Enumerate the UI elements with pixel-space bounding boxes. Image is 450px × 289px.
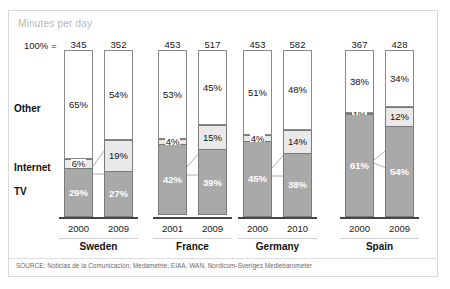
segment-value: 27% (109, 189, 128, 199)
segment-value: 53% (163, 90, 182, 100)
year-label-france-2001: 2001 (158, 223, 187, 234)
segment-internet-sweden-2009: 19% (104, 140, 133, 172)
chart-title: Minutes per day (18, 18, 92, 29)
segment-other-spain-2000: 38% (345, 50, 374, 113)
segment-other-germany-2010: 48% (283, 50, 312, 130)
segment-value: 54% (109, 90, 128, 100)
baseline-germany (238, 217, 317, 219)
year-label-sweden-2000: 2000 (64, 223, 93, 234)
segment-value: 39% (203, 178, 222, 188)
country-divider-france (153, 238, 232, 239)
segment-value: 34% (390, 74, 409, 84)
country-divider-germany (238, 238, 317, 239)
segment-other-sweden-2009: 54% (104, 50, 133, 140)
segment-internet-germany-2000: 4% (243, 135, 272, 142)
segment-value: 45% (203, 83, 222, 93)
segment-value: 61% (350, 161, 369, 171)
segment-value: 65% (69, 100, 88, 110)
segment-value: 14% (288, 137, 307, 147)
baseline-sweden (59, 217, 138, 219)
segment-tv-spain-2009: 54% (385, 127, 414, 217)
segment-internet-sweden-2000: 6% (64, 159, 93, 169)
segment-internet-france-2001: 4% (158, 139, 187, 146)
bar-total-sweden-2000: 345 (64, 39, 93, 50)
row-label-tv: TV (14, 186, 27, 197)
country-divider-sweden (59, 238, 138, 239)
chart-root: Minutes per day 100% = Other Internet TV… (0, 0, 450, 289)
segment-tv-france-2009: 39% (198, 150, 227, 215)
segment-tv-spain-2000: 61% (345, 115, 374, 217)
year-label-spain-2009: 2009 (385, 223, 414, 234)
bar-total-france-2009: 517 (198, 39, 227, 50)
segment-tv-france-2001: 42% (158, 145, 187, 215)
bar-total-germany-2000: 453 (243, 39, 272, 50)
segment-value: 15% (203, 133, 222, 143)
segment-value: 6% (71, 159, 87, 169)
country-divider-spain (340, 238, 419, 239)
segment-tv-germany-2000: 45% (243, 142, 272, 217)
country-label-germany: Germany (238, 241, 317, 252)
country-label-france: France (153, 241, 232, 252)
bar-total-germany-2010: 582 (283, 39, 312, 50)
year-label-germany-2000: 2000 (243, 223, 272, 234)
segment-other-germany-2000: 51% (243, 50, 272, 135)
segment-tv-sweden-2009: 27% (104, 172, 133, 217)
segment-value: 42% (163, 175, 182, 185)
segment-internet-germany-2010: 14% (283, 130, 312, 153)
segment-value: 51% (248, 88, 267, 98)
segment-value: 38% (288, 180, 307, 190)
segment-value: 48% (288, 85, 307, 95)
segment-internet-spain-2009: 12% (385, 107, 414, 127)
segment-tv-germany-2010: 38% (283, 154, 312, 217)
baseline-france (153, 217, 232, 219)
country-label-sweden: Sweden (59, 241, 138, 252)
segment-value: 12% (390, 112, 409, 122)
year-label-france-2009: 2009 (198, 223, 227, 234)
year-label-germany-2010: 2010 (283, 223, 312, 234)
segment-value: 54% (390, 167, 409, 177)
segment-value: 29% (69, 188, 88, 198)
segment-other-france-2001: 53% (158, 50, 187, 139)
row-label-other: Other (14, 103, 41, 114)
segment-tv-sweden-2000: 29% (64, 169, 93, 217)
bar-total-france-2001: 453 (158, 39, 187, 50)
source-divider (8, 258, 438, 259)
year-label-sweden-2009: 2009 (104, 223, 133, 234)
row-label-internet: Internet (14, 162, 51, 173)
segment-value: 45% (248, 174, 267, 184)
baseline-spain (340, 217, 419, 219)
segment-value: 38% (350, 77, 369, 87)
total-axis-label: 100% = (24, 40, 57, 51)
segment-other-france-2009: 45% (198, 50, 227, 125)
bar-total-spain-2009: 428 (385, 39, 414, 50)
bar-total-spain-2000: 367 (345, 39, 374, 50)
segment-value: 19% (109, 151, 128, 161)
segment-other-spain-2009: 34% (385, 50, 414, 107)
bar-total-sweden-2009: 352 (104, 39, 133, 50)
segment-internet-france-2009: 15% (198, 125, 227, 150)
year-label-spain-2000: 2000 (345, 223, 374, 234)
segment-other-sweden-2000: 65% (64, 50, 93, 159)
country-label-spain: Spain (340, 241, 419, 252)
source-note: SOURCE: Noticias de la Comunicación; Med… (16, 262, 312, 269)
